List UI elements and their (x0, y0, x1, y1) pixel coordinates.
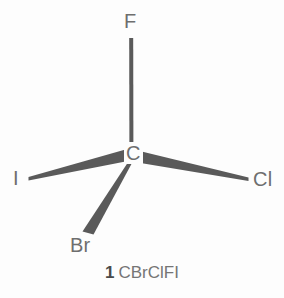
bond-to-bromine (83, 160, 133, 235)
atom-label-iodine: I (13, 168, 19, 188)
atom-label-carbon: C (124, 142, 143, 164)
atom-label-fluorine: F (124, 11, 136, 31)
atom-label-bromine: Br (70, 235, 90, 255)
figure-caption: 1CBrClFI (0, 264, 284, 281)
caption-compound-number: 1 (105, 263, 114, 282)
structure-figure: F C I Cl Br 1CBrClFI (0, 0, 284, 298)
bond-to-fluorine (129, 38, 133, 144)
bond-to-chlorine (138, 151, 249, 182)
atom-label-chlorine: Cl (253, 169, 272, 189)
bond-to-iodine (29, 150, 126, 181)
caption-molecular-formula: CBrClFI (119, 263, 179, 282)
